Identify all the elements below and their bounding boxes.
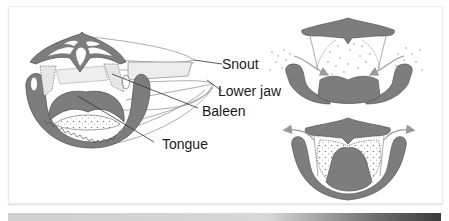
snout-leader-line — [194, 60, 222, 64]
label-baleen: Baleen — [202, 104, 246, 118]
intake-phase-diagram — [269, 18, 423, 104]
label-lower-jaw: Lower jaw — [218, 84, 281, 98]
head-cross-section — [26, 32, 222, 148]
label-snout: Snout — [222, 57, 259, 71]
baleen-leader-line — [112, 74, 198, 108]
label-tongue: Tongue — [162, 137, 208, 151]
expulsion-phase-diagram — [286, 118, 412, 200]
